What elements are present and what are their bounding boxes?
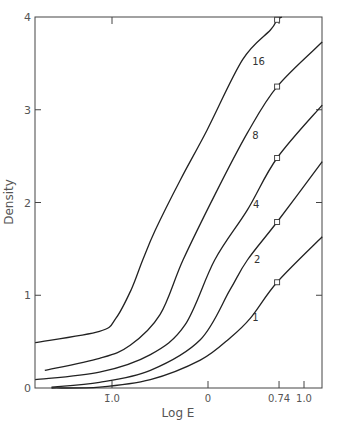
marker: [275, 219, 280, 224]
x-tick-label: 0: [205, 393, 211, 404]
curve-label: 4: [253, 199, 259, 210]
curves: 168421: [35, 17, 322, 388]
curve-line: [35, 105, 322, 380]
y-tick-label: 2: [24, 197, 31, 210]
curve-4: 4: [35, 105, 322, 380]
marker: [275, 17, 280, 22]
x-tick-label: 1̄.0: [104, 393, 120, 404]
curve-line: [52, 237, 323, 388]
curve-line: [52, 162, 323, 387]
density-chart: 01234 1̄.000.741.0 168421 Log E Density: [0, 0, 337, 426]
x-axis: 1̄.000.741.0: [104, 17, 312, 404]
y-axis-label: Density: [2, 179, 16, 225]
curve-label: 1: [252, 312, 258, 323]
curve-1: 1: [52, 237, 323, 388]
y-tick-label: 1: [24, 289, 31, 302]
marker: [275, 155, 280, 160]
curve-label: 2: [254, 254, 260, 265]
curve-line: [45, 42, 322, 370]
y-tick-label: 4: [24, 11, 31, 24]
plot-frame: [35, 17, 322, 388]
x-axis-label: Log E: [162, 406, 195, 420]
curve-16: 16: [35, 17, 282, 343]
curve-line: [35, 17, 282, 343]
curve-2: 2: [52, 162, 323, 387]
x-tick-label: 0.74: [268, 393, 290, 404]
curve-label: 16: [252, 56, 265, 67]
x-tick-label: 1.0: [296, 393, 312, 404]
marker: [275, 280, 280, 285]
y-tick-label: 3: [24, 104, 31, 117]
y-tick-label: 0: [24, 382, 31, 395]
curve-label: 8: [252, 130, 258, 141]
marker: [275, 84, 280, 89]
curve-8: 8: [45, 42, 322, 370]
